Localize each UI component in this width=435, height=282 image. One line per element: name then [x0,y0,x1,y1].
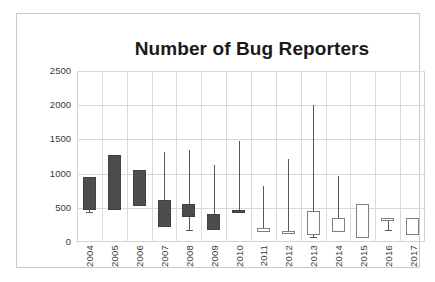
x-tick-label: 2008 [184,245,195,267]
whisker-cap-lower [385,230,392,231]
y-tick-label: 0 [25,236,71,247]
whisker-upper [164,152,165,199]
x-tick-label: 2007 [159,245,170,267]
x-gridline [326,71,327,242]
y-axis-tick-labels: 05001000150020002500 [25,71,71,242]
x-gridline [102,71,103,242]
plot-area [77,71,425,242]
box-body[interactable] [182,204,195,218]
box-body[interactable] [133,170,146,206]
y-tick-label: 2500 [25,65,71,76]
box-body[interactable] [406,218,419,235]
box-body[interactable] [356,204,369,238]
x-tick-label: 2010 [234,245,245,267]
y-tick-label: 2000 [25,99,71,110]
whisker-upper [214,165,215,214]
whisker-upper [189,150,190,203]
x-gridline [152,71,153,242]
y-tick-label: 1000 [25,168,71,179]
whisker-cap-lower [310,237,317,238]
x-gridline [127,71,128,242]
x-tick-label: 2006 [134,245,145,267]
x-axis-tick-labels: 2004200520062007200820092010201120122013… [77,245,425,279]
whisker-lower [388,221,389,230]
y-tick-label: 500 [25,202,71,213]
whisker-upper [313,105,314,211]
box-body[interactable] [232,210,245,213]
box-body[interactable] [108,155,121,210]
whisker-lower [189,217,190,230]
whisker-cap-lower [86,212,93,213]
x-tick-label: 2016 [383,245,394,267]
box-body[interactable] [207,214,220,230]
x-gridline [251,71,252,242]
x-tick-label: 2004 [84,245,95,267]
whisker-upper [263,186,264,228]
box-body[interactable] [158,200,171,227]
x-tick-label: 2013 [308,245,319,267]
box-body[interactable] [282,231,295,234]
whisker-upper [239,141,240,210]
box-body[interactable] [257,228,270,232]
x-gridline [201,71,202,242]
box-body[interactable] [307,211,320,235]
x-tick-label: 2014 [333,245,344,267]
x-gridline [226,71,227,242]
x-gridline [301,71,302,242]
x-tick-label: 2012 [283,245,294,267]
chart-frame: Number of Bug Reporters 0500100015002000… [16,13,420,268]
x-tick-label: 2011 [258,245,269,266]
y-tick-label: 1500 [25,133,71,144]
whisker-upper [338,176,339,218]
x-tick-label: 2015 [358,245,369,267]
whisker-upper [288,159,289,231]
whisker-cap-lower [186,230,193,231]
box-body[interactable] [83,177,96,210]
x-gridline [350,71,351,242]
box-body[interactable] [381,218,394,221]
chart-title: Number of Bug Reporters [77,37,427,61]
x-tick-label: 2005 [109,245,120,267]
x-gridline [176,71,177,242]
x-tick-label: 2017 [408,245,419,267]
box-body[interactable] [332,218,345,232]
x-gridline [276,71,277,242]
x-tick-label: 2009 [209,245,220,267]
x-gridline [375,71,376,242]
x-gridline [400,71,401,242]
